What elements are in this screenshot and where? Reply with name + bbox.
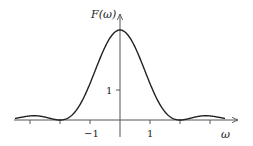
chart: F(ω) ω −1 1 1 xyxy=(0,0,253,146)
x-tick-label-1: 1 xyxy=(147,128,153,139)
y-axis-label: F(ω) xyxy=(90,8,116,21)
y-tick-label-1: 1 xyxy=(106,85,112,96)
x-tick-label-neg1: −1 xyxy=(84,128,99,139)
x-axis-label: ω xyxy=(221,128,230,141)
